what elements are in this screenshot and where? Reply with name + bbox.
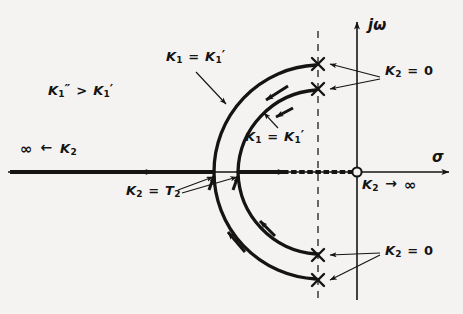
- gain-inequality-legend: K1″ > K1′: [48, 82, 113, 99]
- outer-locus-direction-arrows: [209, 86, 288, 252]
- leader-lower-pole-outer: [330, 255, 380, 280]
- leader-inner-gain: [264, 113, 278, 128]
- leader-breakaway-a: [178, 177, 213, 190]
- leader-lower-pole-inner: [330, 253, 380, 255]
- imaginary-axis-label: jω: [368, 18, 387, 33]
- inner-locus-lower-arc: [238, 172, 316, 254]
- breakaway-gain-label: K2 = T2: [126, 184, 180, 199]
- axis-group: [8, 22, 449, 300]
- outer-branch-gain-label: K1 = K1′: [166, 48, 225, 65]
- leader-upper-pole-outer: [330, 64, 380, 77]
- inner-branch-gain-label: K1 = K1′: [245, 128, 304, 145]
- lower-poles-gain-label: K2 = 0: [385, 244, 433, 259]
- root-locus-figure: K1″ > K1′ K1 = K1′ K1 = K1′ ∞ ← K2 K2 = …: [0, 0, 463, 314]
- real-axis-label: σ: [432, 150, 444, 165]
- upper-poles-gain-label: K2 = 0: [385, 64, 433, 79]
- leader-upper-pole-inner: [330, 79, 380, 89]
- left-asymptote-gain-label: ∞ ← K2: [20, 140, 77, 157]
- leader-outer-gain: [196, 72, 226, 104]
- root-locus-plot: [0, 0, 463, 314]
- origin-gain-label: K2 → ∞: [362, 176, 417, 193]
- inner-arrow-upper: [276, 108, 293, 117]
- outer-arrow-lower: [228, 232, 245, 252]
- zero-origin-marker: [352, 167, 361, 176]
- outer-locus-upper-arc: [214, 65, 316, 172]
